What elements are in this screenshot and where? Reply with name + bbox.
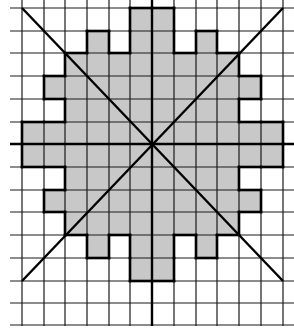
shaded-cell — [22, 144, 44, 167]
shaded-cell — [130, 99, 152, 122]
shaded-cell — [152, 99, 174, 122]
shaded-cell — [109, 212, 130, 235]
shaded-cell — [196, 235, 217, 258]
shaded-cell — [239, 190, 261, 212]
shaded-cell — [261, 122, 283, 144]
shaded-cell — [65, 167, 87, 190]
shaded-cell — [65, 76, 87, 99]
shaded-cell — [196, 122, 217, 144]
shaded-cell — [109, 122, 130, 144]
shaded-cell — [217, 144, 239, 167]
shaded-cell — [87, 235, 109, 258]
shaded-cell — [217, 76, 239, 99]
shaded-cell — [152, 235, 174, 258]
shaded-cell — [109, 76, 130, 99]
shaded-cell — [130, 53, 152, 76]
shaded-cell — [152, 167, 174, 190]
shaded-cell — [196, 31, 217, 53]
shaded-cell — [130, 76, 152, 99]
shaded-cell — [196, 212, 217, 235]
shaded-cell — [174, 53, 196, 76]
shaded-cell — [152, 212, 174, 235]
shaded-cell — [87, 167, 109, 190]
shaded-cell — [239, 144, 261, 167]
shaded-cell — [196, 144, 217, 167]
shaded-cell — [152, 190, 174, 212]
shaded-cell — [130, 258, 152, 281]
shaded-cell — [217, 190, 239, 212]
shaded-cell — [87, 99, 109, 122]
shaded-cell — [109, 53, 130, 76]
shaded-cell — [152, 76, 174, 99]
shaded-cell — [44, 122, 65, 144]
shaded-cell — [130, 8, 152, 31]
shaded-cell — [65, 122, 87, 144]
shaded-cell — [196, 53, 217, 76]
grid-figure — [0, 0, 294, 334]
shaded-cell — [174, 190, 196, 212]
shaded-cell — [22, 122, 44, 144]
shaded-cell — [174, 76, 196, 99]
shaded-cell — [152, 31, 174, 53]
shaded-cell — [65, 99, 87, 122]
shaded-cell — [217, 99, 239, 122]
shaded-cell — [217, 167, 239, 190]
shaded-cell — [174, 144, 196, 167]
shaded-cell — [44, 76, 65, 99]
shaded-cell — [130, 235, 152, 258]
shaded-cell — [196, 167, 217, 190]
shaded-cell — [217, 122, 239, 144]
grid-diagram — [0, 0, 294, 334]
shaded-cell — [87, 144, 109, 167]
shaded-cell — [130, 190, 152, 212]
shaded-cell — [65, 190, 87, 212]
shaded-cell — [152, 8, 174, 31]
shaded-cell — [65, 144, 87, 167]
shaded-cell — [109, 144, 130, 167]
shaded-cell — [130, 212, 152, 235]
shaded-cell — [152, 53, 174, 76]
shaded-cell — [44, 190, 65, 212]
shaded-cell — [87, 31, 109, 53]
shaded-cell — [239, 122, 261, 144]
shaded-cell — [174, 122, 196, 144]
shaded-cell — [239, 76, 261, 99]
shaded-cell — [152, 258, 174, 281]
shaded-cell — [44, 144, 65, 167]
shaded-cell — [87, 212, 109, 235]
shaded-cell — [87, 53, 109, 76]
shaded-cell — [196, 99, 217, 122]
shaded-cell — [109, 190, 130, 212]
shaded-cell — [130, 167, 152, 190]
shaded-cell — [174, 212, 196, 235]
shaded-cell — [130, 31, 152, 53]
shaded-cell — [261, 144, 283, 167]
shaded-cell — [87, 122, 109, 144]
